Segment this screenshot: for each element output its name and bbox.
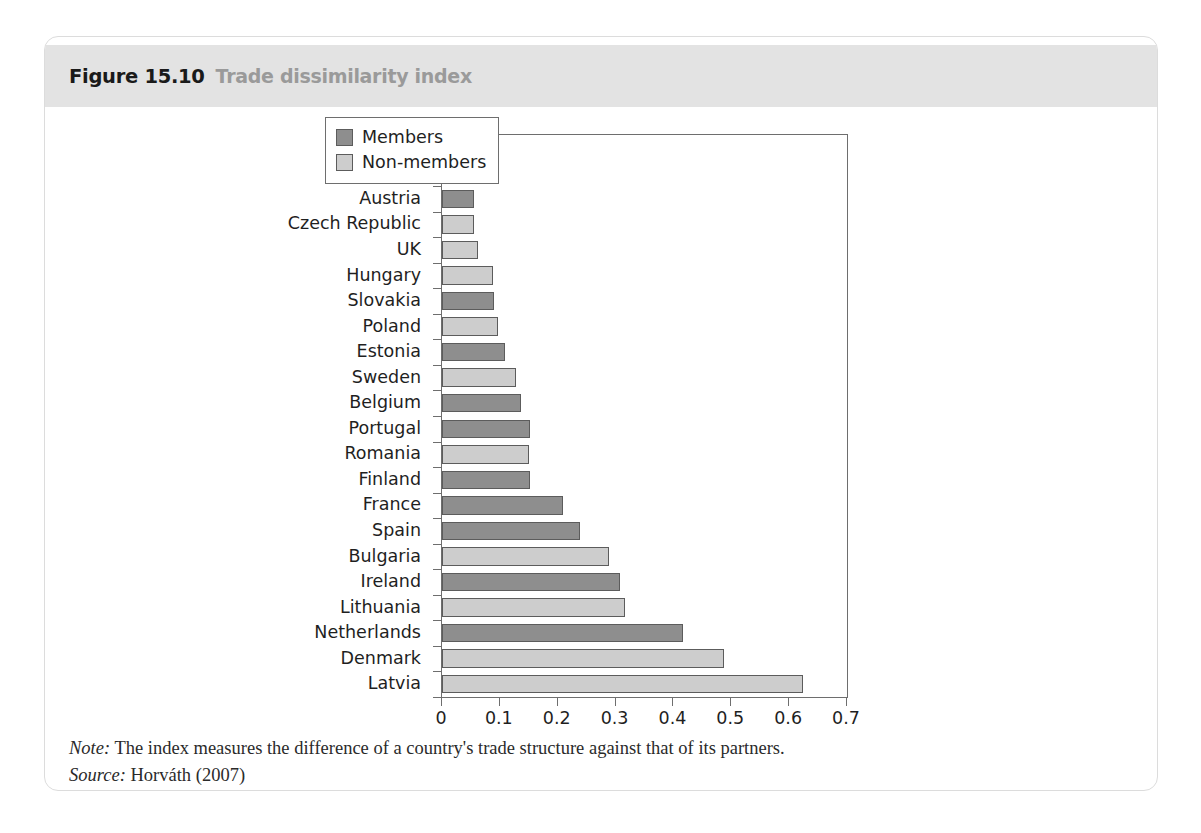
legend-item-non-members: Non-members [336, 150, 486, 175]
bar-latvia [442, 675, 803, 694]
bar-uk [442, 241, 478, 260]
x-axis-tick-label: 0.6 [774, 708, 802, 728]
bar-row [442, 649, 847, 668]
bar-row [442, 445, 847, 464]
legend-label-non-members: Non-members [362, 154, 486, 172]
source-label: Source: [69, 765, 126, 785]
y-axis-tick [433, 697, 441, 698]
bar-row [442, 241, 847, 260]
y-axis-tick [433, 442, 441, 443]
chart-plot-area: SloveniaItalyAustriaCzech RepublicUKHung… [45, 107, 1158, 727]
y-axis-tick [433, 620, 441, 621]
y-axis-label-sweden: Sweden [352, 369, 421, 387]
bar-austria [442, 190, 474, 209]
bar-denmark [442, 649, 724, 668]
y-axis-tick [433, 186, 441, 187]
bar-czech-republic [442, 215, 474, 234]
y-axis-label-denmark: Denmark [341, 650, 421, 668]
y-axis-label-slovakia: Slovakia [348, 292, 421, 310]
source-text: Horváth (2007) [130, 765, 245, 785]
bars-layer [442, 135, 847, 697]
bar-row [442, 624, 847, 643]
bar-row [442, 292, 847, 311]
y-axis-tick [433, 288, 441, 289]
note-text: The index measures the difference of a c… [114, 738, 784, 758]
y-axis-tick [433, 212, 441, 213]
bar-poland [442, 317, 498, 336]
y-axis-label-czech-republic: Czech Republic [288, 215, 421, 233]
bar-bulgaria [442, 547, 609, 566]
bar-sweden [442, 368, 516, 387]
figure-number: Figure 15.10 [69, 65, 205, 88]
y-axis-label-netherlands: Netherlands [314, 624, 421, 642]
bar-finland [442, 471, 530, 490]
bar-hungary [442, 266, 493, 285]
y-axis-tick [433, 544, 441, 545]
x-axis-tick [499, 698, 500, 706]
y-axis-label-finland: Finland [358, 471, 421, 489]
x-axis-tick-label: 0.7 [832, 708, 860, 728]
legend-swatch-non-members-icon [336, 154, 353, 171]
x-axis-tick-label: 0.1 [485, 708, 513, 728]
bar-row [442, 343, 847, 362]
x-axis-tick [441, 698, 442, 706]
y-axis-label-latvia: Latvia [368, 675, 421, 693]
y-axis-label-spain: Spain [372, 522, 421, 540]
bar-ireland [442, 573, 620, 592]
y-axis-label-uk: UK [397, 241, 421, 259]
y-axis-label-poland: Poland [363, 318, 421, 336]
y-axis-tick [433, 569, 441, 570]
bar-row [442, 368, 847, 387]
y-axis-label-ireland: Ireland [360, 573, 421, 591]
note-line: Note: The index measures the difference … [69, 735, 1129, 762]
y-axis-tick [433, 390, 441, 391]
bar-portugal [442, 420, 530, 439]
y-axis-tick [433, 314, 441, 315]
y-axis-label-lithuania: Lithuania [340, 599, 421, 617]
y-axis-tick [433, 595, 441, 596]
bar-france [442, 496, 563, 515]
y-axis-labels: SloveniaItalyAustriaCzech RepublicUKHung… [45, 135, 433, 697]
bar-row [442, 675, 847, 694]
y-axis-tick [433, 518, 441, 519]
x-axis-tick-label: 0 [435, 708, 446, 728]
y-axis-tick [433, 416, 441, 417]
bar-row [442, 573, 847, 592]
bar-spain [442, 522, 580, 541]
note-label: Note: [69, 738, 110, 758]
bar-belgium [442, 394, 521, 413]
bar-lithuania [442, 598, 625, 617]
legend-item-members: Members [336, 125, 486, 150]
y-axis-label-france: France [363, 496, 421, 514]
legend-swatch-members-icon [336, 129, 353, 146]
y-axis-label-bulgaria: Bulgaria [348, 548, 421, 566]
figure-footnotes: Note: The index measures the difference … [69, 735, 1129, 789]
y-axis-tick [433, 339, 441, 340]
bar-row [442, 598, 847, 617]
bar-row [442, 420, 847, 439]
y-axis-label-belgium: Belgium [349, 394, 421, 412]
source-line: Source: Horváth (2007) [69, 762, 1129, 789]
x-axis-tick-label: 0.4 [659, 708, 687, 728]
y-axis-label-romania: Romania [344, 445, 421, 463]
bar-row [442, 471, 847, 490]
y-axis-label-austria: Austria [359, 190, 421, 208]
x-axis-tick [557, 698, 558, 706]
y-axis-label-estonia: Estonia [357, 343, 421, 361]
figure-header: Figure 15.10 Trade dissimilarity index [45, 45, 1158, 107]
y-axis-tick [433, 467, 441, 468]
x-axis-tick [672, 698, 673, 706]
x-axis-tick [846, 698, 847, 706]
bar-row [442, 215, 847, 234]
bar-row [442, 496, 847, 515]
legend-label-members: Members [362, 129, 443, 147]
y-axis-tick [433, 237, 441, 238]
bar-romania [442, 445, 529, 464]
x-axis-tick [788, 698, 789, 706]
bar-row [442, 522, 847, 541]
x-axis-tick-label: 0.5 [716, 708, 744, 728]
x-axis-tick [615, 698, 616, 706]
x-axis-tick [730, 698, 731, 706]
x-axis-tick-label: 0.2 [543, 708, 571, 728]
bar-netherlands [442, 624, 683, 643]
